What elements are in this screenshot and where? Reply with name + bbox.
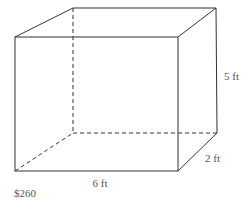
edge-top-left-depth [15,8,73,37]
visible-edges [15,8,217,171]
hidden-edge-bottom-left-depth [15,133,73,171]
edge-back-right-vertical [216,8,217,133]
price-label: $260 [14,187,37,199]
length-label: 6 ft [93,177,108,189]
width-label: 2 ft [205,152,220,164]
prism-diagram: 5 ft 2 ft 6 ft $260 [0,0,248,200]
hidden-edges [15,8,217,171]
front-face [15,37,178,171]
edge-top-right-depth [178,8,216,37]
height-label: 5 ft [224,70,239,82]
